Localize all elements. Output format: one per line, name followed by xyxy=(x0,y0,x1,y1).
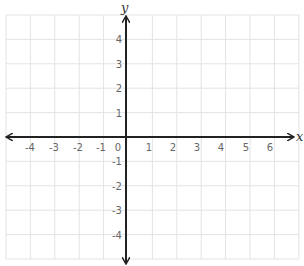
y-tick-label: -3 xyxy=(112,205,122,216)
y-tick-label: -4 xyxy=(112,230,122,241)
x-tick-label: 4 xyxy=(218,142,224,153)
x-tick-label: 5 xyxy=(243,142,249,153)
y-axis-label: y xyxy=(120,0,129,15)
x-tick-label: -4 xyxy=(25,142,35,153)
y-tick-label: -1 xyxy=(112,156,122,167)
y-tick-label: 1 xyxy=(116,108,122,119)
x-tick-label: -1 xyxy=(96,142,106,153)
x-tick-label: 2 xyxy=(170,142,176,153)
y-tick-label: 2 xyxy=(116,83,122,94)
x-tick-label: 6 xyxy=(267,142,273,153)
x-tick-label: 1 xyxy=(146,142,152,153)
y-tick-label: 4 xyxy=(116,34,122,45)
x-tick-label: -3 xyxy=(49,142,59,153)
coordinate-plane: x y -4 -3 -2 -1 0 1 2 3 4 5 6 4 3 2 1 -1… xyxy=(0,0,304,266)
x-tick-label: -2 xyxy=(73,142,83,153)
y-tick-label: -2 xyxy=(112,181,122,192)
x-tick-labels: -4 -3 -2 -1 0 1 2 3 4 5 6 xyxy=(25,142,273,153)
y-tick-label: 3 xyxy=(116,59,122,70)
x-axis-label: x xyxy=(296,129,304,144)
x-tick-label: 3 xyxy=(194,142,200,153)
x-tick-label: 0 xyxy=(115,142,121,153)
